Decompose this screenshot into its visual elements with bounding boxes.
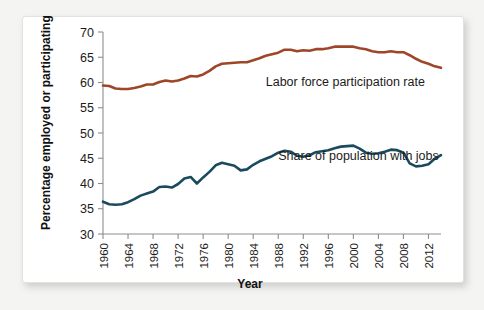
x-tick-label: 2000 bbox=[348, 243, 360, 269]
x-tick-label: 1992 bbox=[298, 243, 310, 269]
y-axis-title: Percentage employed or participating bbox=[39, 15, 53, 230]
x-tick-label: 2008 bbox=[398, 243, 410, 269]
series-label-1: Labor force participation rate bbox=[266, 75, 425, 89]
x-tick-label: 2012 bbox=[423, 243, 435, 269]
x-tick-label: 1984 bbox=[248, 242, 260, 268]
y-tick-label: 40 bbox=[80, 177, 94, 191]
x-tick-label: 1980 bbox=[223, 243, 235, 269]
line-chart: Percentage employed or participating Yea… bbox=[0, 0, 484, 310]
y-tick-label: 55 bbox=[80, 101, 94, 115]
series-label-2: Share of population with jobs bbox=[278, 149, 439, 163]
chart-series bbox=[103, 47, 441, 205]
x-tick-label: 1996 bbox=[323, 243, 335, 269]
y-tick-label: 35 bbox=[80, 202, 94, 216]
y-tick-label: 45 bbox=[80, 152, 94, 166]
chart-container: Percentage employed or participating Yea… bbox=[0, 0, 484, 310]
y-tick-label: 60 bbox=[80, 76, 94, 90]
y-tick-label: 30 bbox=[80, 228, 94, 242]
x-tick-label: 1968 bbox=[148, 243, 160, 269]
x-tick-label: 1960 bbox=[98, 243, 110, 269]
chart-axes: 3035404550556065701960196419681972197619… bbox=[80, 26, 441, 269]
y-tick-label: 70 bbox=[80, 26, 94, 40]
y-tick-label: 65 bbox=[80, 51, 94, 65]
x-tick-label: 2004 bbox=[373, 242, 385, 268]
x-tick-label: 1976 bbox=[198, 243, 210, 269]
x-tick-label: 1988 bbox=[273, 243, 285, 269]
x-tick-label: 1964 bbox=[123, 242, 135, 268]
x-tick-label: 1972 bbox=[173, 243, 185, 269]
y-tick-label: 50 bbox=[80, 127, 94, 141]
series-annotations: Labor force participation rateShare of p… bbox=[266, 75, 439, 164]
chart-page: Percentage employed or participating Yea… bbox=[0, 0, 484, 310]
x-axis-title: Year bbox=[237, 277, 263, 291]
